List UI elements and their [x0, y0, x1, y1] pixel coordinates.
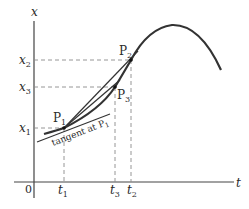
x2-label: x2 — [19, 53, 31, 69]
t2-label: t2 — [127, 183, 137, 199]
function-curve — [44, 25, 221, 134]
secant-p1-p2 — [64, 51, 138, 128]
t3-label: t3 — [110, 183, 120, 199]
x3-label: x3 — [19, 80, 31, 96]
p1-label: P1 — [53, 111, 66, 127]
x-axis-label: x — [31, 5, 38, 19]
t-axis-label: t — [236, 176, 241, 190]
t1-label: t1 — [58, 183, 68, 199]
p2-label: P2 — [119, 44, 132, 60]
dashed-guides — [34, 60, 131, 182]
p3-label: P3 — [117, 88, 130, 104]
x1-label: x1 — [19, 121, 31, 137]
origin-label: 0 — [25, 183, 32, 196]
curve-diagram: x t 0 x2 x3 x1 t1 t3 t2 P1 P2 P3 tangent… — [0, 0, 249, 209]
